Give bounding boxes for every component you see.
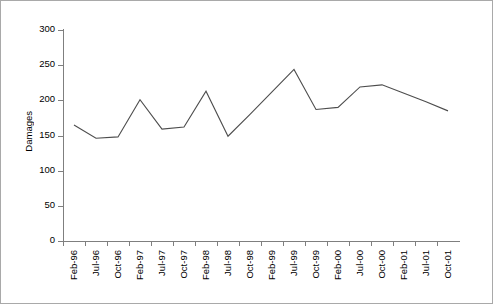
series-line-damages: [74, 69, 448, 138]
series-layer: [1, 1, 494, 305]
line-chart: Damages 050100150200250300 Feb-96Jul-96O…: [1, 1, 494, 305]
chart-frame: Damages 050100150200250300 Feb-96Jul-96O…: [0, 0, 493, 304]
